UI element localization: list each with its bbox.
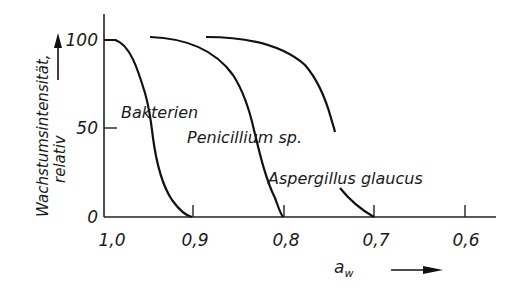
y-axis-title: Wachstumsintensität, relativ	[34, 54, 69, 217]
x-tick-label-0.7: 0,7	[362, 230, 389, 250]
x-tick-label-0.6: 0,6	[452, 230, 479, 250]
chart: 100 50 0 1,0 0,9 0,8 0,7 0,6 Bakterien P…	[0, 0, 523, 294]
label-aspergillus: Aspergillus glaucus	[267, 169, 423, 188]
x-tick-label-0.8: 0,8	[272, 230, 299, 250]
label-penicillium: Penicillium sp.	[187, 128, 302, 147]
curve-aspergillus-lower	[340, 188, 374, 217]
y-tick-label-0: 0	[87, 207, 98, 227]
curve-aspergillus	[206, 37, 335, 132]
x-tick-label-1.0: 1,0	[98, 230, 125, 250]
x-axis-title-sub: w	[344, 267, 353, 280]
label-bakterien: Bakterien	[121, 103, 198, 122]
y-axis-title-line1: Wachstumsintensität,	[34, 54, 52, 217]
y-arrow-head-icon	[54, 33, 62, 48]
y-axis-title-line2: relativ	[51, 134, 69, 183]
x-axis-title: aw	[334, 257, 353, 280]
y-tick-label-100: 100	[66, 30, 98, 50]
y-tick-label-50: 50	[76, 118, 98, 138]
curve-bakterien	[104, 40, 192, 217]
x-arrow-head-icon	[423, 266, 443, 274]
curve-penicillium	[150, 37, 283, 217]
x-axis-title-main: a	[334, 257, 344, 277]
x-tick-label-0.9: 0,9	[181, 230, 208, 250]
